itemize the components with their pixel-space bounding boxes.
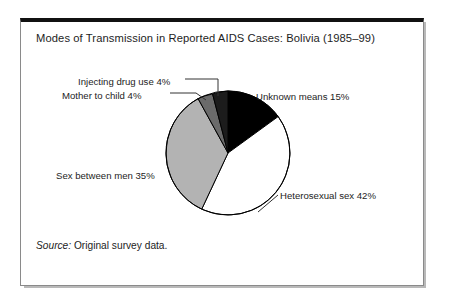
figure-container: Modes of Transmission in Reported AIDS C… (0, 0, 449, 301)
source-label: Source: (36, 240, 71, 251)
slice-label-injecting-drug-use: Injecting drug use 4% (78, 76, 170, 87)
source-text: Original survey data. (71, 240, 167, 251)
slice-label-sex-between-men: Sex between men 35% (56, 170, 155, 181)
pie-chart (0, 0, 449, 301)
slice-label-heterosexual-sex: Heterosexual sex 42% (280, 190, 376, 201)
slice-label-mother-to-child: Mother to child 4% (62, 90, 141, 101)
source-note: Source: Original survey data. (36, 240, 167, 251)
pie-slices (166, 91, 290, 215)
slice-label-unknown-means: Unknown means 15% (256, 91, 349, 102)
